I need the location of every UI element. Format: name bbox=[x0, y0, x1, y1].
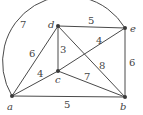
vertex-a bbox=[10, 94, 14, 98]
edge-c-e bbox=[58, 28, 125, 71]
vertex-label-d: d bbox=[48, 19, 54, 30]
edge-c-b bbox=[58, 71, 125, 97]
vertex-label-c: c bbox=[55, 74, 61, 85]
weight-a-b: 5 bbox=[64, 99, 70, 110]
edge-d-e bbox=[58, 26, 125, 28]
vertex-c bbox=[56, 69, 60, 73]
vertex-b bbox=[123, 95, 127, 99]
edge-d-b bbox=[58, 26, 125, 97]
vertex-label-a: a bbox=[7, 101, 13, 112]
weight-d-b: 8 bbox=[99, 60, 105, 71]
weight-a-e: 7 bbox=[20, 19, 26, 30]
weighted-graph: a b c d e 7 6 4 5 5 3 8 4 7 6 bbox=[0, 0, 143, 115]
vertex-label-e: e bbox=[130, 23, 136, 34]
weight-c-e: 4 bbox=[96, 35, 102, 46]
weight-c-b: 7 bbox=[84, 71, 90, 82]
weight-a-c: 4 bbox=[37, 68, 43, 79]
vertex-e bbox=[123, 26, 127, 30]
vertex-label-b: b bbox=[120, 101, 126, 112]
weight-d-e: 5 bbox=[88, 15, 94, 26]
edge-a-b bbox=[12, 96, 125, 97]
vertex-d bbox=[56, 24, 60, 28]
edge-a-c bbox=[12, 71, 58, 96]
weight-e-b: 6 bbox=[129, 57, 135, 68]
weight-a-d: 6 bbox=[29, 48, 35, 59]
edge-a-d bbox=[12, 26, 58, 96]
weight-d-c: 3 bbox=[60, 44, 66, 55]
